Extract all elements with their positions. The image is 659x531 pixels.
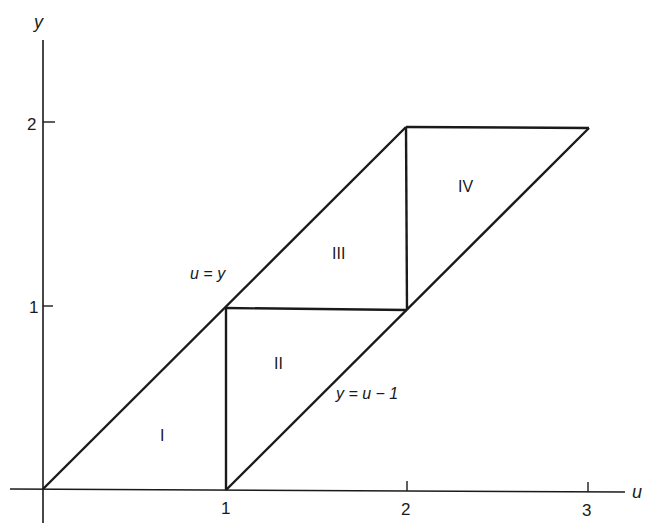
equation-label-u-equals-y: u = y <box>190 265 226 282</box>
top-edge-y2 <box>406 127 589 128</box>
region-label-III: III <box>332 245 345 262</box>
region-label-I: I <box>160 427 164 444</box>
x-axis <box>10 489 625 492</box>
mid-edge-y1 <box>226 308 407 310</box>
y-axis-label: y <box>32 12 44 32</box>
equation-label-y-equals-u-minus-1: y = u − 1 <box>335 385 398 402</box>
x-tick-label-3: 3 <box>582 501 591 520</box>
region-label-IV: IV <box>458 178 473 195</box>
x-tick-label-2: 2 <box>401 500 410 519</box>
y-tick-label-2: 2 <box>27 115 36 134</box>
x-tick-label-1: 1 <box>221 499 230 518</box>
region-diagram: y u 2 1 1 2 3 I II III IV u = y y = u − … <box>0 0 659 531</box>
vertical-u2 <box>406 127 407 310</box>
region-label-II: II <box>274 355 283 372</box>
x-axis-label: u <box>632 482 642 502</box>
line-u-equals-y <box>43 127 406 489</box>
y-tick-label-1: 1 <box>29 298 38 317</box>
